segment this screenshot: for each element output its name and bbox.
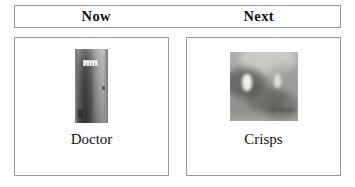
card-now-photo-wrap — [15, 38, 168, 134]
door-frame-left — [75, 49, 77, 123]
crisps-photo-grain — [230, 52, 298, 121]
card-next-photo-wrap — [187, 38, 340, 134]
door-frame-right — [105, 49, 108, 123]
header-strip: Now Next — [14, 5, 341, 28]
card-row: Doctor Crisps — [14, 37, 341, 177]
header-cell-next: Next — [178, 6, 341, 27]
door-sign-plaque — [83, 60, 98, 66]
card-now-label: Doctor — [71, 132, 113, 147]
crisps-photo — [230, 52, 298, 121]
door-handle — [102, 86, 105, 90]
card-next[interactable]: Crisps — [186, 37, 341, 176]
door-shadow-patch — [78, 110, 83, 118]
header-label-next: Next — [243, 8, 274, 25]
card-now[interactable]: Doctor — [14, 37, 169, 176]
door-photo — [75, 49, 108, 123]
now-and-next-board: Now Next Doctor — [0, 0, 355, 187]
header-label-now: Now — [82, 8, 111, 25]
header-cell-now: Now — [15, 6, 178, 27]
card-next-label: Crisps — [244, 132, 282, 147]
